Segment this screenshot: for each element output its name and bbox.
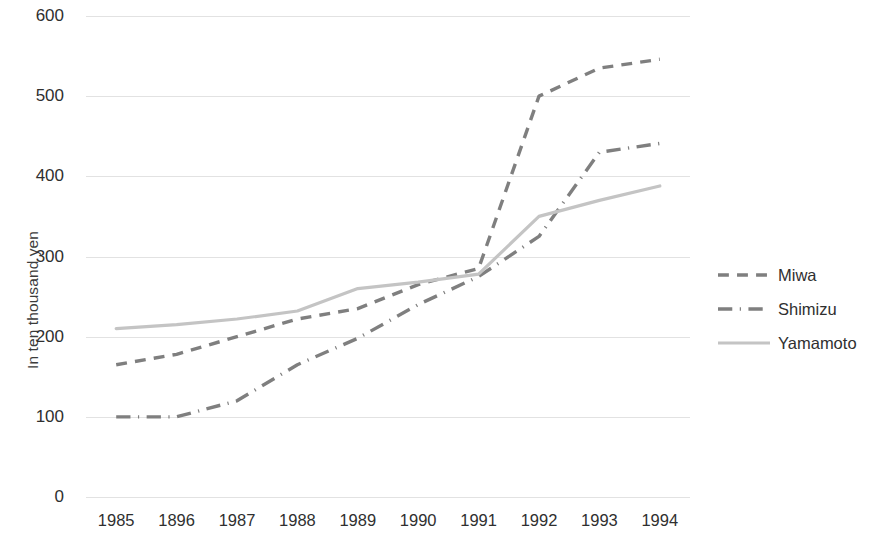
legend-item-shimizu[interactable]: Shimizu — [718, 292, 868, 326]
legend-swatch-miwa-icon — [718, 269, 770, 281]
series-line-shimizu — [116, 143, 660, 416]
legend-item-yamamoto[interactable]: Yamamoto — [718, 326, 868, 360]
legend-swatch-shimizu-icon — [718, 303, 770, 315]
legend-item-miwa[interactable]: Miwa — [718, 258, 868, 292]
legend-swatch-yamamoto-icon — [718, 337, 770, 349]
legend-label: Shimizu — [778, 300, 837, 319]
chart-legend: MiwaShimizuYamamoto — [718, 258, 868, 360]
line-chart: In ten thousand yen 0100200300400500600 … — [0, 0, 875, 535]
series-line-yamamoto — [116, 186, 660, 329]
legend-label: Miwa — [778, 266, 817, 285]
legend-label: Yamamoto — [778, 334, 857, 353]
series-line-miwa — [116, 59, 660, 364]
